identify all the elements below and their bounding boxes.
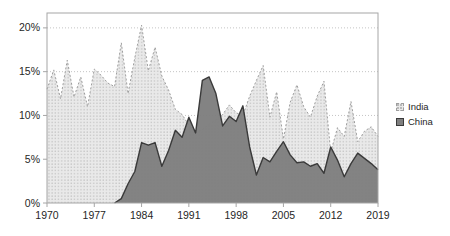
legend-label-china: China: [408, 116, 433, 128]
x-tick-label: 1977: [83, 209, 107, 221]
x-tick-label: 2019: [366, 209, 390, 221]
x-tick-label: 1998: [224, 209, 248, 221]
y-tick-label: 5%: [25, 153, 40, 165]
legend: India China: [396, 101, 433, 128]
area-chart-canvas: 0%5%10%15%20%197019771984199119982005201…: [0, 0, 450, 236]
china-swatch-icon: [396, 118, 404, 126]
y-tick-label: 0%: [25, 197, 40, 209]
x-tick-label: 1984: [130, 209, 154, 221]
y-tick-label: 20%: [19, 21, 40, 33]
india-swatch-icon: [396, 103, 404, 111]
legend-item-china: China: [396, 116, 433, 128]
series-areas: [47, 25, 378, 203]
x-tick-label: 2012: [319, 209, 343, 221]
chart: 0%5%10%15%20%197019771984199119982005201…: [0, 0, 450, 236]
y-tick-label: 10%: [19, 109, 40, 121]
y-tick-label: 15%: [19, 65, 40, 77]
x-tick-label: 2005: [272, 209, 296, 221]
x-tick-label: 1970: [35, 209, 59, 221]
x-tick-label: 1991: [177, 209, 201, 221]
legend-item-india: India: [396, 101, 433, 113]
legend-label-india: India: [408, 101, 429, 113]
